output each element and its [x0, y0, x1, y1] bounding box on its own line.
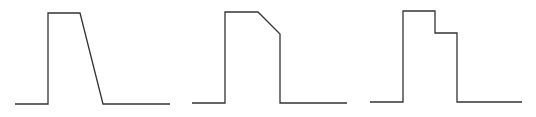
waveform-diagram — [0, 0, 536, 117]
waveform-chamfered-pulse — [192, 12, 347, 103]
waveform-stepped-pulse — [370, 11, 522, 102]
waveform-trapezoid-pulse — [15, 13, 170, 104]
